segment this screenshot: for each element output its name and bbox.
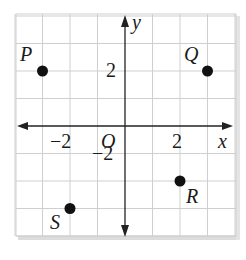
y-tick-neg2: −2 [92,143,113,163]
point-q [202,66,213,77]
point-p [37,66,48,77]
y-tick-pos2: 2 [106,60,116,80]
point-label-r: R [186,186,198,206]
point-label-s: S [50,212,60,232]
point-label-p: P [20,44,32,64]
x-tick-pos2: 2 [172,131,182,151]
x-tick-neg2: −2 [50,131,71,151]
point-s [65,203,76,214]
grid-background [16,14,236,236]
grid-svg [0,0,246,260]
point-label-q: Q [184,44,198,64]
x-axis-label: x [218,131,227,151]
y-axis-label: y [132,12,141,32]
point-r [175,176,186,187]
grid-shadow-bottom [18,236,238,240]
coordinate-plane: y x O −2 2 2 −2 P Q R S [0,0,246,260]
grid-shadow-right [236,16,240,240]
